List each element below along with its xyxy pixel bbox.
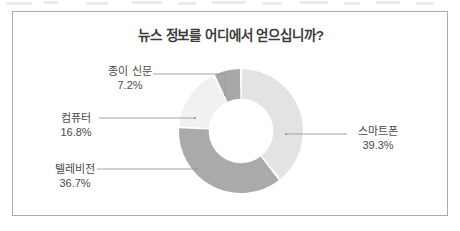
slice-label-smartphone: 스마트폰 39.3% <box>343 124 413 152</box>
slice-label-television-category: 텔레비전 <box>40 162 110 176</box>
slice-label-television: 텔레비전 36.7% <box>40 162 110 190</box>
leader-dot-paper <box>224 94 226 96</box>
slice-label-smartphone-category: 스마트폰 <box>343 124 413 138</box>
slice-label-computer-percent: 16.8% <box>45 125 107 139</box>
slice-label-paper-category: 종이 신문 <box>99 64 161 78</box>
slice-label-computer: 컴퓨터 16.8% <box>45 111 107 139</box>
figure-frame: 뉴스 정보를 어디에서 얻으십니까? <box>12 11 448 216</box>
donut-slice-television[interactable] <box>179 128 279 193</box>
scan-artifacts <box>0 0 460 9</box>
leader-dot-smartphone <box>285 133 287 135</box>
slice-label-paper-percent: 7.2% <box>99 78 161 92</box>
leader-dot-television <box>196 168 198 170</box>
slice-label-television-percent: 36.7% <box>40 176 110 190</box>
leader-dot-computer <box>194 117 196 119</box>
slice-label-computer-category: 컴퓨터 <box>45 111 107 125</box>
slice-label-paper: 종이 신문 7.2% <box>99 64 161 92</box>
slice-label-smartphone-percent: 39.3% <box>343 138 413 152</box>
